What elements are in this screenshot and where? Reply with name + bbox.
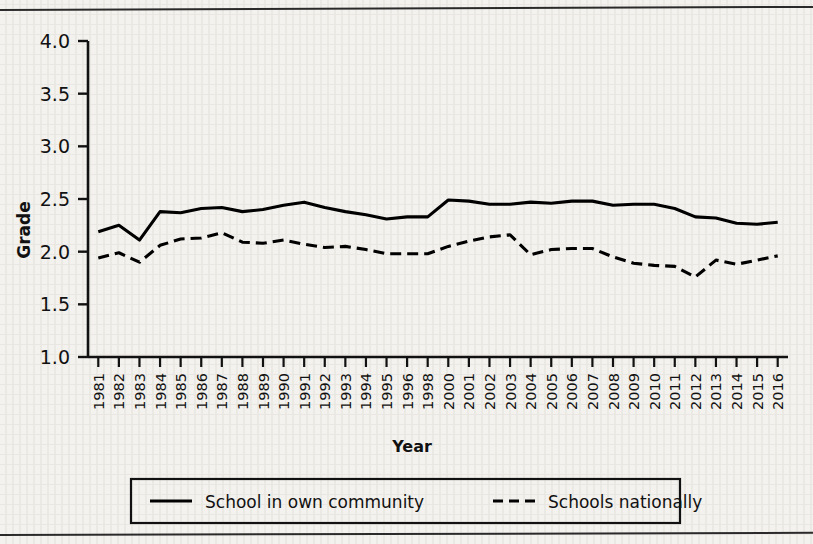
x-tick-label: 1998 — [420, 373, 436, 410]
x-tick-label: 1983 — [132, 373, 148, 410]
x-tick-label: 2002 — [482, 373, 498, 410]
x-tick-label: 2013 — [708, 373, 724, 410]
x-tick-label: 2008 — [606, 373, 622, 410]
x-tick-label: 2010 — [647, 373, 663, 410]
y-tick-label: 2.0 — [40, 241, 70, 263]
chart-canvas: Grade 1.01.52.02.53.03.54.0 198119821983… — [0, 0, 813, 544]
x-tick-label: 1984 — [153, 373, 169, 410]
x-tick-label: 1992 — [317, 373, 333, 410]
y-axis-ticks: 1.01.52.02.53.03.54.0 — [40, 30, 88, 368]
x-tick-label: 2000 — [441, 373, 457, 410]
x-axis-ticks: 1981198219831984198519861987198819891990… — [91, 357, 786, 410]
x-tick-label: 1987 — [214, 373, 230, 410]
x-tick-label: 2016 — [770, 373, 786, 410]
y-tick-label: 2.5 — [40, 188, 70, 210]
series-line-2 — [98, 233, 777, 277]
x-tick-label: 2001 — [461, 373, 477, 410]
x-tick-label: 1995 — [379, 373, 395, 410]
series-line-1 — [98, 200, 777, 240]
x-tick-label: 1988 — [235, 373, 251, 410]
legend-label-own-community: School in own community — [205, 492, 424, 512]
x-tick-label: 1985 — [173, 373, 189, 410]
y-tick-label: 1.0 — [40, 346, 70, 368]
x-tick-label: 2009 — [626, 373, 642, 410]
x-tick-label: 2014 — [729, 373, 745, 410]
x-tick-label: 1991 — [297, 373, 313, 410]
chart-legend: School in own community Schools national… — [131, 479, 702, 523]
x-tick-label: 1989 — [256, 373, 272, 410]
y-tick-label: 1.5 — [40, 293, 70, 315]
x-tick-label: 1986 — [194, 373, 210, 410]
x-tick-label: 2006 — [564, 373, 580, 410]
data-series-layer — [98, 200, 777, 277]
x-tick-label: 1982 — [111, 373, 127, 410]
x-tick-label: 1996 — [400, 373, 416, 410]
x-tick-label: 2003 — [503, 373, 519, 410]
y-axis-title: Grade — [14, 201, 34, 259]
line-chart-figure: Grade 1.01.52.02.53.03.54.0 198119821983… — [0, 0, 813, 544]
y-tick-label: 3.5 — [40, 83, 70, 105]
x-tick-label: 1993 — [338, 373, 354, 410]
x-tick-label: 2007 — [585, 373, 601, 410]
x-tick-label: 2015 — [750, 373, 766, 410]
x-axis-title-text: Year — [391, 437, 432, 456]
x-tick-label: 2012 — [688, 373, 704, 410]
y-tick-label: 3.0 — [40, 135, 70, 157]
x-tick-label: 2005 — [544, 373, 560, 410]
legend-label-nationally: Schools nationally — [548, 492, 702, 512]
y-axis-title-text: Grade — [14, 201, 34, 259]
y-tick-label: 4.0 — [40, 30, 70, 52]
x-tick-label: 2004 — [523, 373, 539, 410]
x-tick-label: 1994 — [358, 373, 374, 410]
x-tick-label: 1990 — [276, 373, 292, 410]
x-tick-label: 2011 — [667, 373, 683, 410]
x-tick-label: 1981 — [91, 373, 107, 410]
